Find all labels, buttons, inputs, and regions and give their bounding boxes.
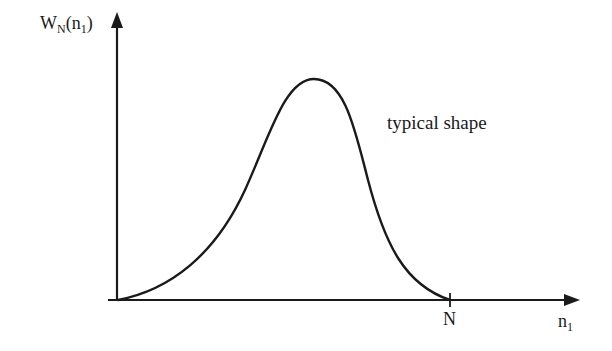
y-label-arg-open: (n bbox=[66, 13, 81, 33]
x-axis-label: n1 bbox=[558, 312, 573, 333]
x-label-sub: 1 bbox=[567, 320, 573, 334]
curve-annotation: typical shape bbox=[387, 113, 487, 132]
distribution-diagram bbox=[0, 0, 612, 351]
tick-label-n: N bbox=[443, 310, 456, 328]
x-label-base: n bbox=[558, 311, 567, 331]
x-axis-arrowhead-icon bbox=[564, 294, 580, 306]
y-axis-label: WN(n1) bbox=[40, 14, 93, 35]
y-label-sub: N bbox=[57, 22, 66, 36]
y-label-base: W bbox=[40, 13, 57, 33]
y-axis-arrowhead-icon bbox=[111, 12, 123, 28]
y-label-arg-close: ) bbox=[87, 13, 93, 33]
